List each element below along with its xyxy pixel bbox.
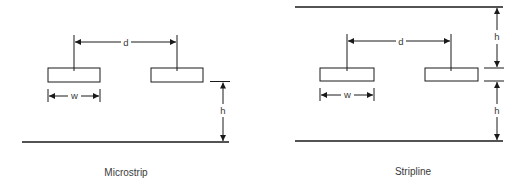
stripline-width-label: w <box>343 89 351 100</box>
microstrip-width-label: w <box>70 90 78 101</box>
stripline-width-dimension: w <box>320 88 374 101</box>
stripline-height-dimensions: h h <box>484 8 504 140</box>
stripline-caption: Stripline <box>395 166 432 177</box>
stripline-spacing-label: d <box>398 36 403 47</box>
stripline-bottom-height-label: h <box>494 105 499 116</box>
transmission-line-diagrams: d w h Microstrip <box>0 0 520 188</box>
stripline-top-height-label: h <box>494 31 499 42</box>
stripline-spacing-dimension: d <box>347 34 451 71</box>
microstrip-spacing-label: d <box>123 37 128 48</box>
stripline-diagram: d w h h Stripline <box>295 7 504 177</box>
microstrip-diagram: d w h Microstrip <box>22 35 230 178</box>
microstrip-spacing-dimension: d <box>74 35 177 71</box>
microstrip-caption: Microstrip <box>104 167 148 178</box>
microstrip-height-dimension: h <box>210 82 230 142</box>
microstrip-width-dimension: w <box>48 89 100 102</box>
microstrip-height-label: h <box>220 105 225 116</box>
